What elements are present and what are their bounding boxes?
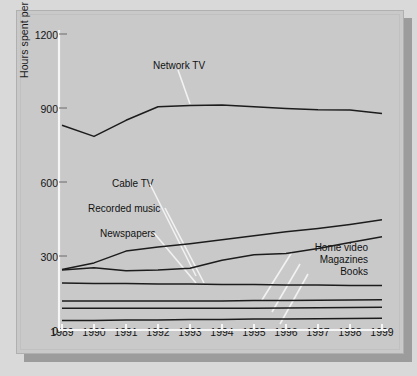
- series-line-newspapers: [62, 283, 382, 286]
- chart-figure: Hours spent per person per year 1200 900…: [0, 0, 417, 376]
- leader-network-tv: [178, 70, 190, 104]
- series-line-magazines: [62, 307, 382, 308]
- leader-cable-tv: [150, 184, 196, 276]
- series-line-books: [62, 318, 382, 320]
- plot-area: [0, 0, 417, 376]
- series-line-network-tv: [62, 105, 382, 136]
- leader-books: [280, 274, 308, 324]
- y-tick-marks: [59, 34, 67, 256]
- series-line-cable-tv: [62, 220, 382, 270]
- series-line-home-video: [62, 300, 382, 301]
- leader-home-video: [262, 252, 292, 300]
- leader-magazines: [272, 264, 300, 312]
- series-lines: [62, 105, 382, 321]
- leader-newspapers: [154, 233, 196, 283]
- series-line-recorded-music: [62, 237, 382, 271]
